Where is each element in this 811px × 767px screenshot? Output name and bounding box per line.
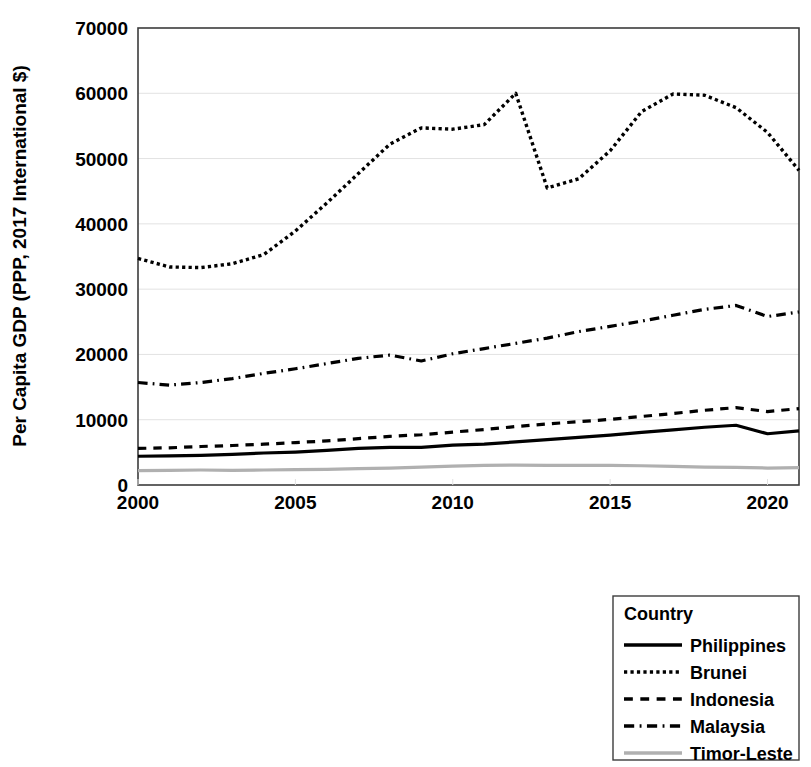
y-tick-label: 40000 [75, 214, 128, 235]
plot-frame [138, 28, 799, 485]
y-tick-label: 10000 [75, 410, 128, 431]
legend-title: Country [624, 604, 693, 624]
line-chart: 010000200003000040000500006000070000 200… [0, 0, 811, 767]
chart-legend: Country PhilippinesBruneiIndonesiaMalays… [613, 596, 799, 764]
y-tick-label: 60000 [75, 83, 128, 104]
legend-label-timor-leste: Timor-Leste [690, 744, 793, 764]
legend-label-malaysia: Malaysia [690, 717, 766, 737]
series-lines [138, 93, 799, 470]
y-tick-label: 70000 [75, 18, 128, 39]
x-tick-label: 2005 [274, 492, 317, 513]
series-line-brunei [138, 93, 799, 267]
x-axis-tick-labels: 20002005201020152020 [117, 479, 789, 513]
series-line-timor-leste [138, 465, 799, 471]
series-line-philippines [138, 425, 799, 456]
gridlines [138, 93, 799, 419]
y-axis-title: Per Capita GDP (PPP, 2017 International … [9, 65, 30, 447]
plot-border [138, 28, 799, 485]
legend-label-brunei: Brunei [690, 663, 747, 683]
x-tick-label: 2020 [746, 492, 788, 513]
legend-label-indonesia: Indonesia [690, 690, 775, 710]
y-tick-label: 30000 [75, 279, 128, 300]
x-tick-label: 2010 [432, 492, 474, 513]
series-line-malaysia [138, 305, 799, 385]
x-tick-label: 2000 [117, 492, 159, 513]
x-tick-label: 2015 [589, 492, 632, 513]
y-axis-tick-labels: 010000200003000040000500006000070000 [75, 18, 128, 496]
legend-label-philippines: Philippines [690, 636, 786, 656]
y-tick-label: 50000 [75, 149, 128, 170]
y-tick-label: 20000 [75, 344, 128, 365]
chart-figure: 010000200003000040000500006000070000 200… [0, 0, 811, 767]
